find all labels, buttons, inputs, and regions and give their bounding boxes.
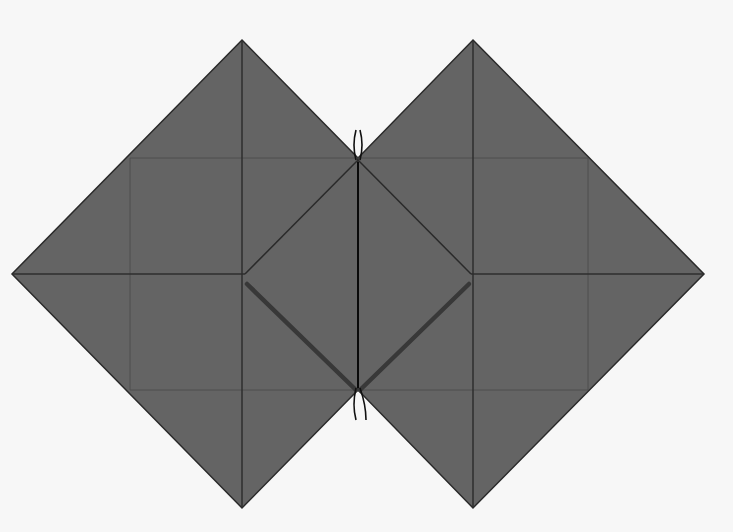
diagram-canvas (0, 0, 733, 532)
origami-diagram (0, 0, 733, 532)
